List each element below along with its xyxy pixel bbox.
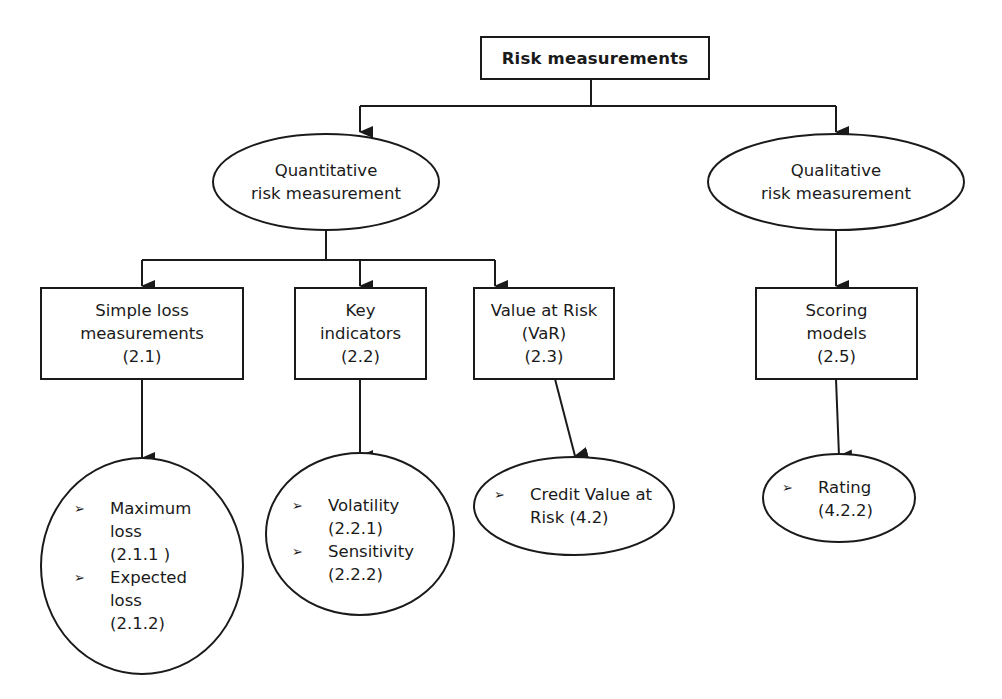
leaf-item-line: Sensitivity: [328, 540, 414, 563]
qualitative-line-1: Qualitative: [761, 159, 911, 182]
leaf-item-line: (2.2.1): [328, 517, 399, 540]
quantitative-line-2: risk measurement: [251, 182, 401, 205]
scoring-line-2: models: [806, 322, 868, 345]
leaf-item: ➢ Volatility (2.2.1): [292, 494, 414, 540]
arrow-bullet-icon: ➢: [782, 476, 818, 522]
var-label: Value at Risk (VaR) (2.3): [474, 288, 614, 379]
quantitative-connectors: [142, 230, 495, 286]
var-line-2: (VaR): [491, 322, 598, 345]
var-leaf-list: ➢ Credit Value at Risk (4.2): [494, 483, 652, 529]
quantitative-label: Quantitative risk measurement: [213, 134, 439, 230]
quantitative-line-1: Quantitative: [251, 159, 401, 182]
key-indicators-leaf-list: ➢ Volatility (2.2.1) ➢ Sensitivity (2.2.…: [292, 494, 414, 586]
simple-loss-label: Simple loss measurements (2.1): [41, 288, 243, 379]
key-indicators-line-1: Key: [320, 299, 401, 322]
leaf-item: ➢ Rating (4.2.2): [782, 476, 873, 522]
arrow-bullet-icon: ➢: [292, 540, 328, 586]
scoring-label: Scoring models (2.5): [756, 288, 917, 379]
arrow-bullet-icon: ➢: [74, 566, 110, 635]
leaf-item-line: (2.1.1 ): [110, 543, 191, 566]
leaf-item: ➢ Sensitivity (2.2.2): [292, 540, 414, 586]
leaf-item-line: (2.2.2): [328, 563, 414, 586]
simple-loss-line-2: measurements: [80, 322, 204, 345]
root-title: Risk measurements: [481, 37, 709, 79]
leaf-item: ➢ Credit Value at Risk (4.2): [494, 483, 652, 529]
leaf-item-line: Volatility: [328, 494, 399, 517]
key-indicators-line-2: indicators: [320, 322, 401, 345]
arrow-bullet-icon: ➢: [494, 483, 530, 529]
leaf-item-line: (4.2.2): [818, 499, 873, 522]
leaf-item: ➢ Maximum loss (2.1.1 ): [74, 497, 191, 566]
leaf-connectors: [142, 379, 839, 458]
leaf-item: ➢ Expected loss (2.1.2): [74, 566, 191, 635]
leaf-item-line: Credit Value at: [530, 483, 652, 506]
leaf-item-line: loss: [110, 520, 191, 543]
simple-loss-line-1: Simple loss: [80, 299, 204, 322]
leaf-item-line: Maximum: [110, 497, 191, 520]
key-indicators-line-3: (2.2): [320, 345, 401, 368]
root-title-text: Risk measurements: [502, 47, 689, 70]
leaf-item-line: Expected: [110, 566, 187, 589]
root-connectors: [360, 79, 836, 132]
simple-loss-line-3: (2.1): [80, 345, 204, 368]
leaf-item-line: Rating: [818, 476, 873, 499]
scoring-leaf-list: ➢ Rating (4.2.2): [782, 476, 873, 522]
leaf-item-line: loss: [110, 589, 187, 612]
leaf-item-line: (2.1.2): [110, 612, 187, 635]
arrow-bullet-icon: ➢: [292, 494, 328, 540]
key-indicators-label: Key indicators (2.2): [295, 288, 426, 379]
leaf-item-line: Risk (4.2): [530, 506, 652, 529]
scoring-line-1: Scoring: [806, 299, 868, 322]
simple-loss-leaf-list: ➢ Maximum loss (2.1.1 ) ➢ Expected loss …: [74, 497, 191, 635]
arrow-bullet-icon: ➢: [74, 497, 110, 566]
scoring-line-3: (2.5): [806, 345, 868, 368]
var-line-1: Value at Risk: [491, 299, 598, 322]
qualitative-label: Qualitative risk measurement: [708, 134, 964, 230]
var-line-3: (2.3): [491, 345, 598, 368]
qualitative-line-2: risk measurement: [761, 182, 911, 205]
